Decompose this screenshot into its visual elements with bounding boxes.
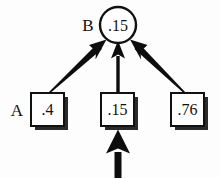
edge-input-to-middle [106, 130, 130, 179]
edge-middle-to-circle [111, 41, 125, 94]
box-left-value: .4 [42, 101, 54, 118]
node-box-middle[interactable]: .15 [101, 93, 138, 130]
edge-right-to-circle [130, 40, 187, 94]
top-circle-value: .15 [108, 17, 128, 34]
arrow-head-input [106, 130, 130, 154]
label-a: A [11, 101, 24, 120]
box-middle-value: .15 [108, 101, 128, 118]
node-box-right[interactable]: .76 [171, 93, 208, 130]
diagram-svg: .15 B .4 A .15 .76 [0, 0, 220, 178]
edge-left-shaft [48, 44, 103, 94]
node-box-left[interactable]: .4 [31, 93, 68, 130]
label-b: B [82, 16, 93, 35]
node-top-circle[interactable]: .15 [100, 7, 136, 43]
diagram-canvas: .15 B .4 A .15 .76 [0, 0, 220, 178]
edge-right-shaft [135, 44, 187, 94]
edge-left-to-circle [48, 40, 107, 94]
box-right-value: .76 [178, 101, 198, 118]
